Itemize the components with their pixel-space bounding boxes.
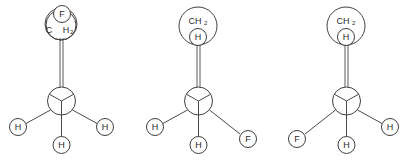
rear-lower-hydrogen-label: H [63, 25, 70, 35]
rear-group-subscript: 2 [352, 20, 356, 26]
newman-structure-3: CH 2 H F H H [275, 0, 413, 163]
substituent-label-left: F [294, 134, 300, 144]
newman-projection-figure: F C H 2 H H H CH 2 H [0, 0, 413, 163]
newman-structure-1: F C H 2 H H H [0, 0, 138, 163]
substituent-bond-right [358, 110, 384, 124]
substituent-label-right: H [387, 122, 394, 132]
substituent-label-bottom: H [195, 140, 202, 150]
newman-structure-2: CH 2 H H F H [138, 0, 276, 163]
rear-upper-atom-label: F [59, 9, 65, 19]
substituent-bond-right [73, 110, 99, 124]
rear-lower-carbon-label: C [46, 25, 53, 35]
rear-lower-atom-label: H [343, 32, 350, 42]
rear-group-subscript: 2 [204, 20, 208, 26]
substituent-bond-left [25, 110, 51, 124]
rear-group-main-label: CH [337, 16, 350, 26]
substituent-label-left: H [15, 122, 22, 132]
substituent-bond-left [305, 110, 336, 134]
substituent-label-right: F [245, 134, 251, 144]
substituent-label-bottom: H [58, 140, 65, 150]
substituent-bond-right [210, 110, 241, 134]
substituent-label-bottom: H [343, 140, 350, 150]
substituent-label-right: H [102, 122, 109, 132]
rear-lower-atom-label: H [195, 32, 202, 42]
rear-group-main-label: CH [189, 16, 202, 26]
substituent-bond-left [162, 110, 188, 124]
substituent-label-left: H [152, 122, 159, 132]
bottom-right-smudge: ..... [332, 149, 342, 156]
